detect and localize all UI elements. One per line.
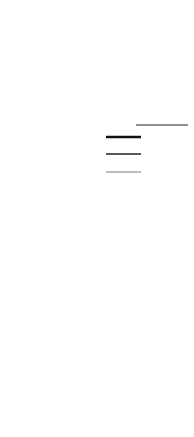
stress-strain-chart [106,125,188,172]
figure [0,0,194,437]
legend [106,125,188,172]
